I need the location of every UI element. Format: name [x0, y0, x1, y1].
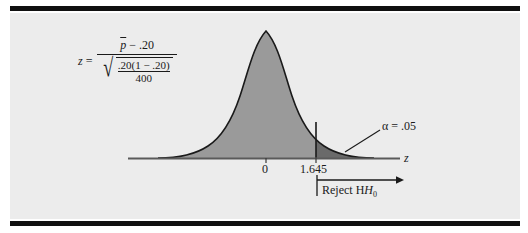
- radicand-denominator: 400: [136, 72, 153, 84]
- radicand-numerator: .20(1 − .20): [118, 59, 170, 71]
- formula-lhs: z: [78, 54, 83, 69]
- reject-region-label: Reject HH0: [322, 184, 377, 199]
- formula-fraction: p − .20 √ .20(1 − .20) 400: [97, 38, 176, 84]
- radicand: .20(1 − .20) 400: [116, 57, 173, 84]
- numerator-remainder: − .20: [126, 38, 154, 52]
- x-axis-label: z: [404, 152, 409, 164]
- radical-sign: √: [104, 57, 114, 84]
- alpha-leader-line: [345, 130, 380, 152]
- null-hypothesis-subscript: 0: [373, 190, 377, 199]
- tick-label-critical-value: 1.645: [300, 163, 327, 175]
- null-hypothesis-symbol: H: [364, 183, 373, 197]
- tick-label-zero: 0: [262, 163, 268, 175]
- formula-denominator: √ .20(1 − .20) 400: [97, 55, 176, 84]
- formula-numerator: p − .20: [114, 38, 160, 54]
- test-statistic-formula: z = p − .20 √ .20(1 − .20) 400: [78, 38, 177, 84]
- acceptance-region: [158, 31, 374, 158]
- reject-text: Reject H: [322, 183, 364, 197]
- reject-arrow-head: [396, 176, 404, 184]
- alpha-annotation: α = .05: [382, 120, 416, 132]
- statistics-figure: 0 1.645 z α = .05 Reject HH0 z = p − .20…: [0, 0, 528, 233]
- square-root: √ .20(1 − .20) 400: [101, 57, 172, 84]
- formula-equals: =: [86, 54, 93, 69]
- distribution-plot: [0, 0, 528, 233]
